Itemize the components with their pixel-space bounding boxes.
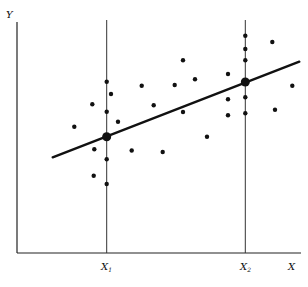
data-point <box>226 72 230 76</box>
data-point <box>243 58 247 62</box>
data-point <box>243 95 247 99</box>
data-point <box>243 34 247 38</box>
data-point <box>92 174 96 178</box>
data-point <box>226 97 230 101</box>
regression-line <box>53 62 300 158</box>
data-point <box>130 148 134 152</box>
data-point <box>161 150 165 154</box>
data-point <box>243 111 247 115</box>
data-point <box>270 40 274 44</box>
data-point <box>273 108 277 112</box>
conditional-mean-point-1 <box>102 132 111 141</box>
data-point <box>140 84 144 88</box>
data-point <box>193 77 197 81</box>
data-point <box>181 110 185 114</box>
data-point <box>90 102 94 106</box>
data-point <box>290 84 294 88</box>
x1-tick-label: X1 <box>100 261 112 273</box>
conditional-mean-point-2 <box>241 78 250 87</box>
data-point <box>72 125 76 129</box>
vertical-guide-lines <box>107 20 246 253</box>
data-point <box>173 83 177 87</box>
data-point <box>205 135 209 139</box>
data-point <box>92 147 96 151</box>
data-point <box>226 113 230 117</box>
regression-chart: Y X X1 X2 <box>0 0 308 287</box>
data-points <box>72 34 294 187</box>
data-point <box>181 58 185 62</box>
data-point <box>109 92 113 96</box>
data-point <box>105 157 109 161</box>
x2-tick-label: X2 <box>239 261 251 273</box>
axes <box>17 22 301 253</box>
x-axis-label: X <box>287 261 296 272</box>
data-point <box>116 120 120 124</box>
data-point <box>243 47 247 51</box>
data-point <box>105 182 109 186</box>
data-point <box>105 110 109 114</box>
data-point <box>105 80 109 84</box>
y-axis-label: Y <box>6 9 14 20</box>
data-point <box>152 103 156 107</box>
